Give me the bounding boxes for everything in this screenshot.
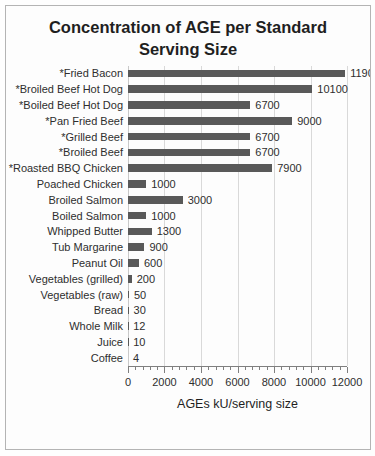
- x-tick-label: 4000: [189, 376, 213, 388]
- category-axis: *Fried Bacon*Broiled Beef Hot Dog*Boiled…: [6, 66, 128, 411]
- major-tick: [201, 367, 202, 373]
- value-label: 12: [133, 320, 145, 332]
- bar-row: 1300: [128, 224, 347, 240]
- bar-row: 12: [128, 318, 347, 334]
- bar-row: 11900: [128, 66, 347, 82]
- minor-tick: [194, 367, 195, 370]
- category-label: Juice: [6, 334, 128, 350]
- bar-row: 900: [128, 239, 347, 255]
- bar-row: 200: [128, 271, 347, 287]
- bar-chart: *Fried Bacon*Broiled Beef Hot Dog*Boiled…: [6, 66, 370, 411]
- bars-area: 1190010100670090006700670079001000300010…: [128, 66, 347, 366]
- value-label: 6700: [255, 146, 279, 158]
- value-label: 1000: [151, 210, 175, 222]
- bar: [128, 85, 312, 93]
- category-label: *Grilled Beef: [6, 129, 128, 145]
- category-label: Whole Milk: [6, 318, 128, 334]
- category-label: Boiled Salmon: [6, 208, 128, 224]
- value-label: 6700: [255, 99, 279, 111]
- value-label: 9000: [297, 115, 321, 127]
- value-label: 1300: [157, 225, 181, 237]
- bar-row: 50: [128, 287, 347, 303]
- x-tick-label: 8000: [262, 376, 286, 388]
- bar-row: 1000: [128, 176, 347, 192]
- value-label: 7900: [277, 162, 301, 174]
- major-tick: [238, 367, 239, 373]
- minor-tick: [208, 367, 209, 370]
- category-label: Tub Margarine: [6, 239, 128, 255]
- minor-tick: [296, 367, 297, 370]
- category-label: Peanut Oil: [6, 255, 128, 271]
- plot-area: 1190010100670090006700670079001000300010…: [128, 66, 347, 411]
- minor-tick: [267, 367, 268, 370]
- value-label: 10100: [317, 83, 348, 95]
- category-label: Coffee: [6, 350, 128, 366]
- bar-row: 4: [128, 350, 347, 366]
- minor-tick: [179, 367, 180, 370]
- minor-tick: [325, 367, 326, 370]
- minor-tick: [186, 367, 187, 370]
- x-axis: [128, 366, 347, 375]
- x-tick-label: 6000: [225, 376, 249, 388]
- minor-tick: [281, 367, 282, 370]
- major-tick: [347, 367, 348, 373]
- bar-row: 1000: [128, 208, 347, 224]
- bar-row: 3000: [128, 192, 347, 208]
- value-label: 200: [137, 273, 155, 285]
- minor-tick: [252, 367, 253, 370]
- category-label: *Pan Fried Beef: [6, 113, 128, 129]
- bar-row: 6700: [128, 145, 347, 161]
- value-label: 900: [149, 241, 167, 253]
- bar-row: 6700: [128, 97, 347, 113]
- bar: [128, 70, 345, 78]
- bar: [128, 180, 146, 188]
- value-label: 3000: [188, 194, 212, 206]
- x-tick-label: 0: [125, 376, 131, 388]
- value-label: 1000: [151, 178, 175, 190]
- bar: [128, 117, 292, 125]
- bar-row: 9000: [128, 113, 347, 129]
- bar: [128, 275, 132, 283]
- x-axis-title: AGEs kU/serving size: [128, 397, 347, 411]
- major-tick: [311, 367, 312, 373]
- bar: [128, 164, 272, 172]
- minor-tick: [230, 367, 231, 370]
- category-label: Bread: [6, 302, 128, 318]
- category-label: *Boiled Beef Hot Dog: [6, 97, 128, 113]
- value-label: 50: [134, 289, 146, 301]
- category-label: *Roasted BBQ Chicken: [6, 160, 128, 176]
- minor-tick: [135, 367, 136, 370]
- minor-tick: [223, 367, 224, 370]
- bar: [128, 228, 152, 236]
- bar-row: 10: [128, 334, 347, 350]
- value-label: 11900: [350, 67, 371, 79]
- value-label: 600: [144, 257, 162, 269]
- value-label: 30: [134, 304, 146, 316]
- minor-tick: [340, 367, 341, 370]
- minor-tick: [332, 367, 333, 370]
- bar: [128, 259, 139, 267]
- minor-tick: [303, 367, 304, 370]
- value-label: 10: [133, 336, 145, 348]
- minor-tick: [172, 367, 173, 370]
- bar: [128, 196, 183, 204]
- x-tick-label: 2000: [152, 376, 176, 388]
- minor-tick: [150, 367, 151, 370]
- category-label: *Broiled Beef Hot Dog: [6, 81, 128, 97]
- category-label: Broiled Salmon: [6, 192, 128, 208]
- gridline: [347, 66, 348, 366]
- major-tick: [164, 367, 165, 373]
- minor-tick: [259, 367, 260, 370]
- minor-tick: [289, 367, 290, 370]
- category-label: *Broiled Beef: [6, 145, 128, 161]
- bar-row: 10100: [128, 81, 347, 97]
- minor-tick: [216, 367, 217, 370]
- bar-row: 7900: [128, 160, 347, 176]
- chart-frame: Concentration of AGE per Standard Servin…: [5, 5, 371, 450]
- minor-tick: [157, 367, 158, 370]
- category-label: *Fried Bacon: [6, 66, 128, 82]
- bar-row: 6700: [128, 129, 347, 145]
- category-label: Vegetables (raw): [6, 287, 128, 303]
- bar: [128, 243, 144, 251]
- major-tick: [274, 367, 275, 373]
